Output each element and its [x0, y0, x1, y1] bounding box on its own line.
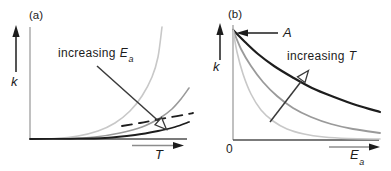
- panel-a-x-axis-label: T: [155, 148, 163, 161]
- increasing-t-annotation: increasingT: [287, 50, 356, 62]
- panel-b-y-axis-label: k: [213, 60, 220, 73]
- panel-b: [216, 23, 380, 151]
- increasing-ea-annotation: increasingEa: [58, 47, 133, 62]
- panel-a-y-axis-label: k: [11, 75, 18, 88]
- intercept-a-label: A: [283, 26, 292, 39]
- panel-b-tag: (b): [228, 9, 242, 21]
- panel-a-k-arrow-head-icon: [12, 25, 19, 37]
- figure-svg: [0, 0, 391, 171]
- curve-medium-T: [233, 30, 380, 133]
- panel-a: [12, 25, 193, 149]
- curve-large-Ea: [30, 122, 189, 139]
- panel-b-origin-label: 0: [226, 143, 233, 155]
- increasing-t-arrow-shaft: [270, 81, 302, 122]
- panel-b-x-axis-label: Ea: [350, 148, 364, 165]
- panel-b-k-arrow-head-icon: [216, 23, 223, 35]
- panel-a-t-arrow-head-icon: [173, 142, 184, 149]
- panel-a-curves: [30, 27, 193, 139]
- panel-b-ea-arrow-head-icon: [369, 144, 380, 151]
- curve-medium-Ea: [30, 88, 189, 139]
- panel-a-tag: (a): [29, 10, 43, 22]
- panel-b-curves: [233, 30, 380, 139]
- figure-canvas: { "colors": { "light_curve": "#c8c8c8", …: [0, 0, 391, 171]
